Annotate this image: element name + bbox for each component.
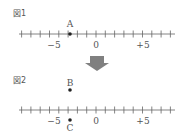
- point-a-dot: [68, 32, 72, 36]
- tick-label-0-fig2: 0: [93, 116, 99, 126]
- point-b-dot: [68, 88, 72, 92]
- tick-label-minus5-fig1: −5: [47, 40, 61, 50]
- down-arrow-icon: [85, 56, 109, 71]
- tick-label-plus5-fig1: +5: [136, 40, 150, 50]
- tick-label-minus5-fig2: −5: [47, 116, 61, 126]
- point-b-label: B: [67, 78, 74, 88]
- tick-label-0-fig1: 0: [93, 40, 99, 50]
- number-line-1: [19, 31, 175, 38]
- point-c-label: C: [67, 123, 74, 133]
- number-line-diagram: A −5 0 +5 B C −5 0 +5: [0, 0, 187, 138]
- point-c-dot: [68, 118, 72, 122]
- number-line-2: [19, 107, 175, 114]
- point-a-label: A: [66, 19, 74, 29]
- tick-label-plus5-fig2: +5: [136, 116, 150, 126]
